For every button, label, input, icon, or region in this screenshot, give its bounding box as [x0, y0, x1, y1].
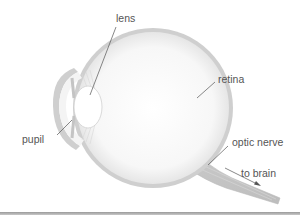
bottom-divider: [0, 212, 300, 215]
label-pupil: pupil: [22, 133, 44, 145]
label-retina: retina: [218, 73, 244, 85]
lens: [74, 86, 102, 128]
label-to-brain: to brain: [241, 167, 276, 179]
eye-diagram: lens retina pupil optic nerve to brain: [0, 0, 300, 216]
label-optic-nerve: optic nerve: [232, 136, 284, 148]
label-lens: lens: [116, 12, 135, 24]
